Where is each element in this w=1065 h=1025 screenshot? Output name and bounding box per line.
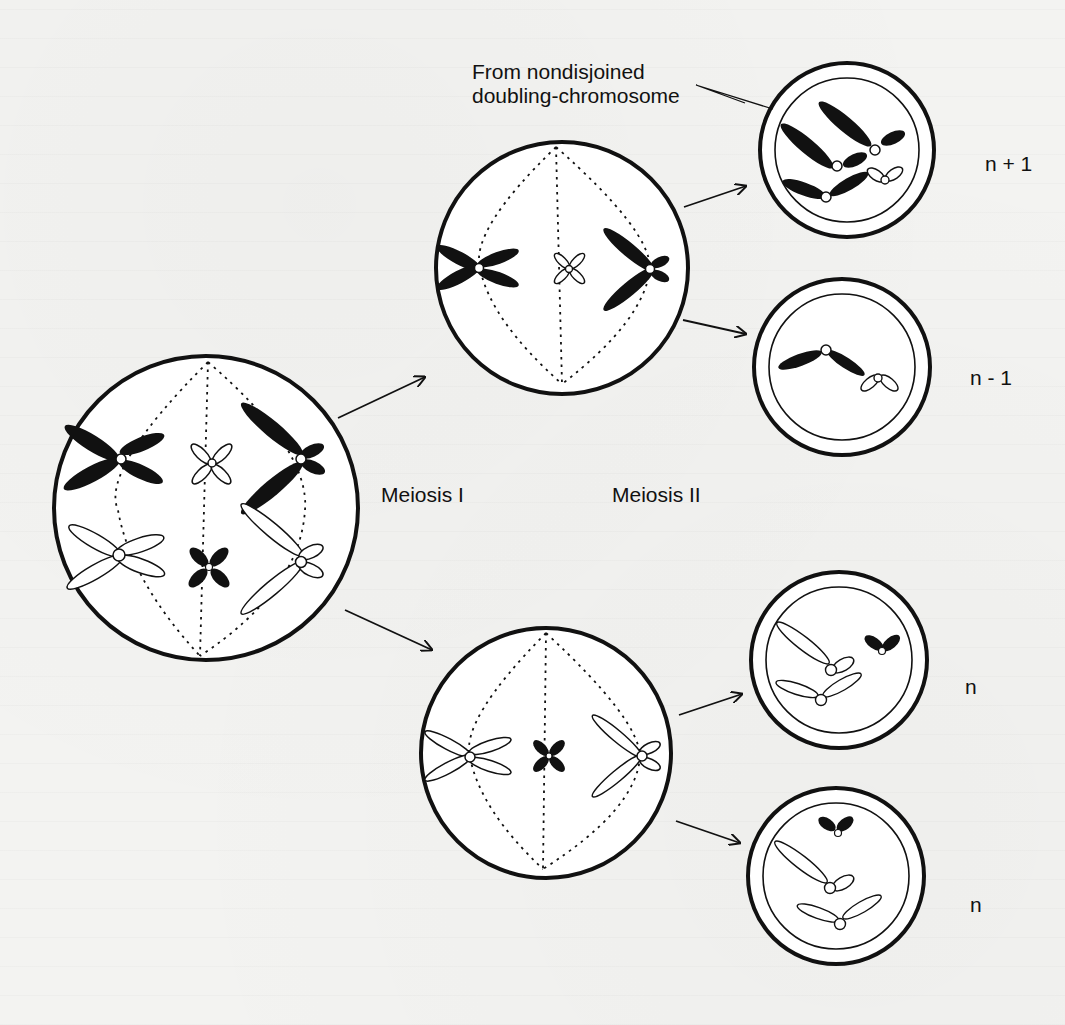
gamete-n-minus-1 (754, 279, 930, 455)
upper-daughter-cell (434, 142, 688, 394)
arrow-meiosis1-lower (345, 610, 432, 650)
gamete-label-n-b: n (970, 893, 982, 917)
arrow-meiosis2-lower-b (676, 821, 740, 843)
lower-daughter-cell (421, 628, 671, 878)
meiosis-diagram: From nondisjoined doubling-chromosome Me… (0, 0, 1065, 1025)
parent-cell (54, 356, 358, 660)
gamete-n-plus-1 (696, 63, 934, 237)
meiosis-2-label: Meiosis II (612, 483, 701, 507)
gamete-label-n-minus-1: n - 1 (970, 366, 1012, 390)
arrow-meiosis2-upper-b (683, 320, 746, 334)
meiosis-1-label: Meiosis I (381, 483, 464, 507)
gamete-n-a (751, 572, 927, 748)
gamete-n-b (748, 788, 924, 964)
diagram-canvas (0, 0, 1065, 1025)
arrow-meiosis2-upper-a (684, 186, 746, 207)
gamete-label-n-a: n (965, 675, 977, 699)
arrow-meiosis1-upper (338, 377, 425, 418)
gamete-label-n-plus-1: n + 1 (985, 152, 1032, 176)
annotation-label-line1: From nondisjoined (472, 60, 645, 84)
annotation-label-line2: doubling-chromosome (472, 84, 680, 108)
arrow-meiosis2-lower-a (679, 694, 742, 715)
